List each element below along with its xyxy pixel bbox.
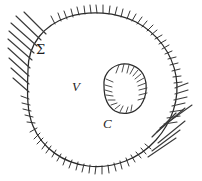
outer-surface-curve: [28, 13, 178, 167]
outer-hatch-right-long: [148, 105, 192, 157]
figure-canvas: Σ V C: [0, 0, 202, 181]
label-volume-v: V: [72, 80, 80, 93]
label-outer-surface-sigma: Σ: [36, 43, 45, 56]
outer-hatch-right-upper: [164, 83, 188, 124]
inner-surface-curve: [104, 64, 146, 113]
inner-surface-group: [104, 64, 146, 113]
label-inner-surface-c: C: [103, 117, 112, 130]
outer-surface-group: [28, 13, 178, 167]
diagram-svg: [0, 0, 202, 181]
